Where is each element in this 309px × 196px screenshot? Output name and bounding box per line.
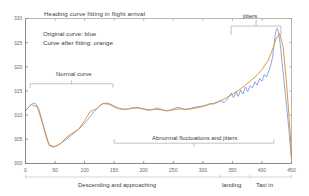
x-tick-label: 300 xyxy=(199,167,208,173)
y-tick-label: 310 xyxy=(14,112,23,118)
x-tick-label: 200 xyxy=(140,167,149,173)
phase-label-taxi-in: Taxi in xyxy=(256,182,273,188)
chart-figure: 0501001502002503003504004503003053103153… xyxy=(0,0,309,196)
annotation-abnormal-fluctuations: Abnormal fluctuations and jitters xyxy=(152,135,237,141)
x-tick-label: 0 xyxy=(24,167,27,173)
y-tick-label: 300 xyxy=(14,160,23,166)
x-tick-label: 250 xyxy=(169,167,178,173)
bracket-jitters xyxy=(231,26,281,35)
annotation-jitters: jitters xyxy=(243,13,257,19)
phase-label-landing: landing xyxy=(222,182,241,188)
phase-label-descending: Descending and approaching xyxy=(78,182,156,188)
legend-item-fitted: Curve after fitting: orange xyxy=(43,40,113,46)
x-tick-label: 400 xyxy=(258,167,267,173)
bracket-normal-curve xyxy=(30,84,113,88)
legend-item-original: Original curve: blue xyxy=(43,31,96,37)
annotation-normal-curve: Normal curve xyxy=(56,71,92,77)
y-tick-label: 315 xyxy=(14,88,23,94)
y-tick-label: 325 xyxy=(14,40,23,46)
x-tick-label: 450 xyxy=(287,167,296,173)
y-tick-label: 305 xyxy=(14,136,23,142)
x-tick-label: 100 xyxy=(80,167,89,173)
x-tick-label: 150 xyxy=(110,167,119,173)
y-tick-label: 330 xyxy=(14,15,23,21)
x-tick-label: 350 xyxy=(228,167,237,173)
y-tick-label: 320 xyxy=(14,64,23,70)
x-tick-label: 50 xyxy=(52,167,58,173)
chart-title: Heading curve fitting in flight arrival xyxy=(44,11,145,17)
